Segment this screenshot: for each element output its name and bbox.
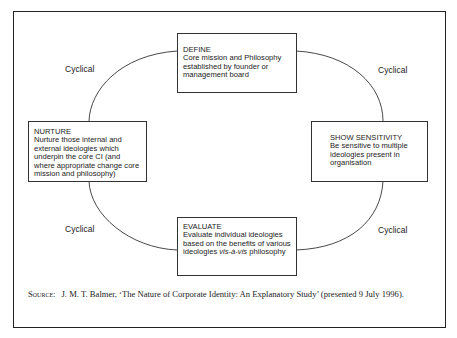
edge-label-bottom-right: Cyclical xyxy=(378,225,407,235)
source-text: J. M. T. Balmer, ‘The Nature of Corporat… xyxy=(62,289,404,299)
node-evaluate-body: Evaluate individual ideologies based on … xyxy=(183,231,291,256)
edge-label-top-left: Cyclical xyxy=(65,64,94,74)
node-nurture-body: Nurture those internal and external ideo… xyxy=(34,136,141,178)
node-show-sensitivity: SHOW SENSITIVITY Be sensitive to multipl… xyxy=(311,121,428,182)
node-evaluate: EVALUATE Evaluate individual ideologies … xyxy=(177,217,297,276)
edge-label-top-right: Cyclical xyxy=(378,65,407,75)
source-citation: Source:J. M. T. Balmer, ‘The Nature of C… xyxy=(28,289,436,300)
node-define: DEFINE Core mission and Philosophy estab… xyxy=(177,33,297,93)
node-show-sensitivity-body: Be sensitive to multiple ideologies pres… xyxy=(330,142,422,167)
node-evaluate-body-italic: vis-à-vis xyxy=(219,247,247,256)
source-label: Source: xyxy=(28,289,56,299)
node-define-body: Core mission and Philosophy established … xyxy=(183,54,291,79)
node-evaluate-body-tail: philosophy xyxy=(247,247,285,256)
node-nurture: NURTURE Nurture those internal and exter… xyxy=(28,121,147,182)
edge-label-bottom-left: Cyclical xyxy=(65,224,94,234)
